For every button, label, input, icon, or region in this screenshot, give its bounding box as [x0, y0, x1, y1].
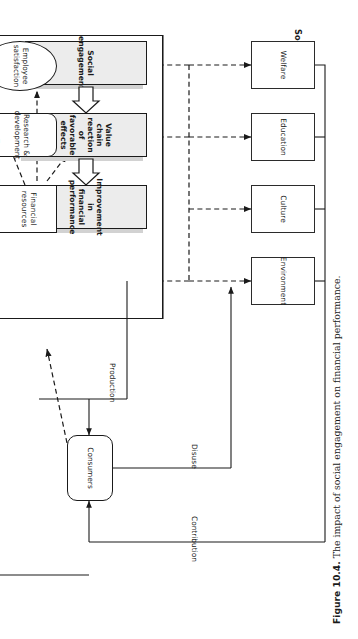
node-label: Research & development: [12, 111, 30, 160]
figure-number: Figure 10.4.: [331, 561, 342, 624]
figure-caption: Figure 10.4. The impact of social engage…: [331, 275, 342, 624]
edge-label-text: Disuse: [190, 444, 199, 469]
edge-label-contribution: Contribution: [190, 516, 199, 562]
chain-arrow-layer: [19, 19, 339, 619]
node-consumers[interactable]: Consumers: [67, 435, 113, 501]
edge-label-disuse: Disuse: [190, 444, 199, 469]
node-label: Consumers: [86, 447, 95, 489]
block-arrow-1: [73, 87, 99, 113]
figure-caption-text: The impact of social engagement on finan…: [331, 275, 342, 558]
node-research-development[interactable]: Research & development: [0, 113, 57, 157]
edge-label-tax: Tax: [0, 139, 1, 151]
edge-label-text: Contribution: [190, 516, 199, 562]
rotated-figure-wrapper: Society Welfare Education Culture Enviro…: [0, 0, 358, 639]
edge-label-production: Production: [108, 363, 117, 402]
block-arrow-2: [73, 159, 99, 185]
edge-label-text: Production: [108, 363, 117, 402]
node-label: Employee satisfaction: [11, 45, 29, 88]
node-financial-resources[interactable]: Financial resources: [0, 185, 57, 233]
node-label: Financial resources: [19, 191, 36, 228]
edge-label-text: Tax: [0, 139, 1, 151]
figure-page: Society Welfare Education Culture Enviro…: [0, 0, 358, 639]
diagram-canvas: Society Welfare Education Culture Enviro…: [19, 19, 339, 619]
